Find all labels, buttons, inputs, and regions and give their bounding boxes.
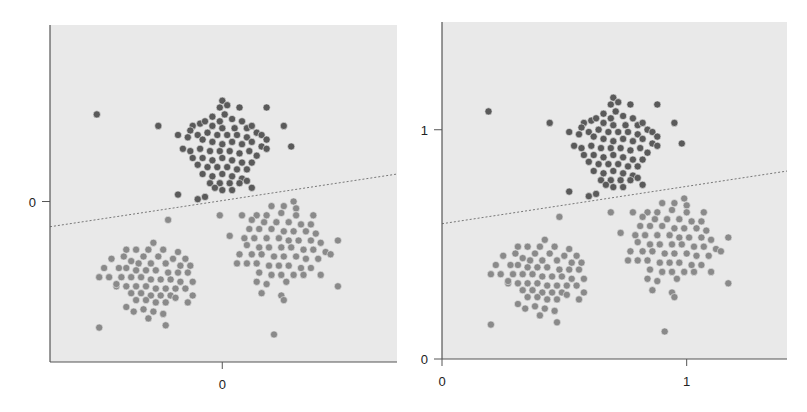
class-b-point xyxy=(101,264,108,271)
class-b-point xyxy=(177,262,184,269)
class-b-point xyxy=(578,259,585,266)
class-c-point xyxy=(334,237,341,244)
class-a-point xyxy=(201,118,208,125)
class-a-point xyxy=(566,188,573,195)
class-a-point xyxy=(209,113,216,120)
class-a-point xyxy=(620,170,627,177)
class-a-point xyxy=(627,177,634,184)
class-a-point xyxy=(566,128,573,135)
left-panel-centered: 00 xyxy=(29,25,397,392)
class-a-point xyxy=(624,163,631,170)
class-b-point xyxy=(553,257,560,264)
class-a-point xyxy=(197,145,204,152)
class-c-point xyxy=(646,266,653,273)
class-b-point xyxy=(519,287,526,294)
class-a-point xyxy=(179,145,186,152)
class-a-point xyxy=(585,158,592,165)
class-c-point xyxy=(265,244,272,251)
class-c-point xyxy=(293,212,300,219)
class-b-point xyxy=(534,294,541,301)
class-b-point xyxy=(133,283,140,290)
class-c-point xyxy=(300,246,307,253)
class-a-point xyxy=(634,163,641,170)
class-a-point xyxy=(229,138,236,145)
class-b-point xyxy=(123,303,130,310)
class-a-point xyxy=(590,133,597,140)
class-b-point xyxy=(534,264,541,271)
class-a-point xyxy=(214,131,221,138)
class-c-point xyxy=(644,257,651,264)
class-c-point xyxy=(661,328,668,335)
class-b-point xyxy=(123,264,130,271)
class-a-point xyxy=(221,111,228,118)
class-b-point xyxy=(187,262,194,269)
class-b-point xyxy=(162,299,169,306)
class-b-point xyxy=(556,213,563,220)
class-b-point xyxy=(118,274,125,281)
y-tick-label: 1 xyxy=(421,123,428,138)
class-a-point xyxy=(615,128,622,135)
class-c-point xyxy=(293,205,300,212)
class-a-point xyxy=(204,164,211,171)
class-c-point xyxy=(317,271,324,278)
class-b-point xyxy=(162,322,169,329)
class-c-point xyxy=(700,243,707,250)
class-b-point xyxy=(524,243,531,250)
class-c-point xyxy=(717,248,724,255)
class-a-point xyxy=(590,151,597,158)
class-a-point xyxy=(263,136,270,143)
class-a-point xyxy=(610,138,617,145)
class-b-point xyxy=(544,282,551,289)
class-b-point xyxy=(549,273,556,280)
class-b-point xyxy=(541,305,548,312)
class-b-point xyxy=(162,285,169,292)
class-c-point xyxy=(649,248,656,255)
class-c-point xyxy=(656,259,663,266)
class-a-point xyxy=(219,141,226,148)
class-c-point xyxy=(659,200,666,207)
class-a-point xyxy=(194,196,201,203)
class-b-point xyxy=(108,255,115,262)
class-a-point xyxy=(224,102,231,109)
class-c-point xyxy=(261,219,268,226)
class-c-point xyxy=(659,222,666,229)
class-b-point xyxy=(580,275,587,282)
class-a-point xyxy=(216,104,223,111)
class-b-point xyxy=(165,216,172,223)
class-b-point xyxy=(169,255,176,262)
class-c-point xyxy=(275,235,282,242)
class-a-point xyxy=(229,157,236,164)
class-a-point xyxy=(280,122,287,129)
class-c-point xyxy=(698,261,705,268)
class-a-point xyxy=(155,122,162,129)
class-c-point xyxy=(624,257,631,264)
class-a-point xyxy=(600,110,607,117)
class-b-point xyxy=(487,271,494,278)
class-c-point xyxy=(265,262,272,269)
class-a-point xyxy=(238,118,245,125)
class-b-point xyxy=(553,282,560,289)
class-a-point xyxy=(184,134,191,141)
class-a-point xyxy=(214,164,221,171)
class-b-point xyxy=(563,282,570,289)
class-a-point xyxy=(644,149,651,156)
class-a-point xyxy=(610,184,617,191)
class-b-point xyxy=(529,271,536,278)
class-a-point xyxy=(678,140,685,147)
class-c-point xyxy=(258,251,265,258)
class-b-point xyxy=(575,266,582,273)
class-a-point xyxy=(610,151,617,158)
class-c-point xyxy=(278,271,285,278)
class-a-point xyxy=(637,145,644,152)
class-c-point xyxy=(302,255,309,262)
class-c-point xyxy=(668,268,675,275)
class-c-point xyxy=(256,244,263,251)
class-c-point xyxy=(283,278,290,285)
class-a-point xyxy=(595,126,602,133)
class-a-point xyxy=(199,170,206,177)
class-a-point xyxy=(607,145,614,152)
class-b-point xyxy=(172,294,179,301)
class-c-point xyxy=(651,216,658,223)
class-c-point xyxy=(690,243,697,250)
class-c-point xyxy=(637,222,644,229)
